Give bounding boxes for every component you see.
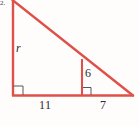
- right-angle-mark-inner: [83, 88, 91, 96]
- figure-number-corner-mark: 2.: [0, 0, 7, 7]
- label-base-left-11: 11: [39, 99, 52, 111]
- label-inner-segment-6: 6: [85, 67, 91, 79]
- right-angle-mark-left: [14, 86, 24, 95]
- hypotenuse-line: [13, 0, 134, 96]
- label-base-right-7: 7: [100, 99, 106, 111]
- label-leg-r: r: [16, 42, 21, 54]
- geometry-figure: 2. r 6 11 7: [0, 0, 139, 126]
- triangle-diagram-svg: [0, 0, 139, 126]
